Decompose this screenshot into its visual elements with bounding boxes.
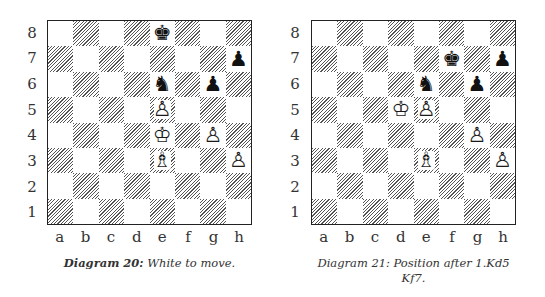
square-c2 (363, 173, 388, 198)
square-g7 (200, 46, 225, 71)
square-g5 (200, 97, 225, 122)
square-g3 (200, 148, 225, 173)
black-king-icon: ♚ (153, 23, 172, 44)
square-b6 (73, 72, 98, 97)
rank-label: 2 (22, 174, 42, 200)
square-a8 (312, 21, 337, 46)
square-f6 (175, 72, 200, 97)
piece-glyph: ♙ (468, 123, 487, 147)
square-a7 (48, 46, 73, 71)
file-label: d (124, 228, 150, 250)
square-b5 (337, 97, 362, 122)
black-knight-icon: ♞ (153, 74, 172, 95)
square-d4 (124, 123, 149, 148)
square-g6: ♟ (464, 72, 489, 97)
file-label: h (490, 228, 516, 250)
square-g6: ♟ (200, 72, 225, 97)
square-b6 (337, 72, 362, 97)
square-f5 (175, 97, 200, 122)
square-f1 (439, 199, 464, 224)
file-label: e (414, 228, 440, 250)
square-h8 (226, 21, 251, 46)
square-f7 (175, 46, 200, 71)
white-bishop-icon: ♗ (153, 150, 172, 171)
file-label: a (311, 228, 337, 250)
square-g5 (464, 97, 489, 122)
rank-label: 5 (22, 97, 42, 123)
square-f6 (439, 72, 464, 97)
square-h5 (490, 97, 515, 122)
square-e8: ♚ (150, 21, 175, 46)
square-b2 (337, 173, 362, 198)
square-h6 (490, 72, 515, 97)
square-a6 (48, 72, 73, 97)
white-pawn-icon: ♙ (468, 125, 487, 146)
square-d2 (388, 173, 413, 198)
square-g1 (200, 199, 225, 224)
square-a3 (48, 148, 73, 173)
square-e5: ♙ (150, 97, 175, 122)
square-d2 (124, 173, 149, 198)
square-b3 (337, 148, 362, 173)
square-e8 (414, 21, 439, 46)
square-a8 (48, 21, 73, 46)
square-h1 (226, 199, 251, 224)
rank-label: 1 (22, 199, 42, 225)
square-e7 (150, 46, 175, 71)
square-h8 (490, 21, 515, 46)
square-c1 (363, 199, 388, 224)
square-f2 (175, 173, 200, 198)
caption-line-1: Diagram 21: Position after 1.Kd5 (301, 256, 526, 271)
square-b3 (73, 148, 98, 173)
piece-glyph: ♚ (442, 47, 461, 71)
square-b8 (337, 21, 362, 46)
file-label: b (73, 228, 99, 250)
square-g7 (464, 46, 489, 71)
square-g3 (464, 148, 489, 173)
square-a2 (312, 173, 337, 198)
piece-glyph: ♞ (417, 72, 436, 96)
rank-label: 7 (22, 46, 42, 72)
square-e1 (414, 199, 439, 224)
black-pawn-icon: ♟ (204, 74, 223, 95)
square-e6: ♞ (150, 72, 175, 97)
diagram-caption: Diagram 21: Position after 1.Kd5 Kf7. (301, 256, 526, 286)
square-d6 (124, 72, 149, 97)
white-king-icon: ♔ (153, 125, 172, 146)
square-f8 (175, 21, 200, 46)
square-h4 (226, 123, 251, 148)
piece-glyph: ♗ (417, 148, 436, 172)
square-c6 (99, 72, 124, 97)
square-f5 (439, 97, 464, 122)
rank-label: 1 (285, 199, 305, 225)
rank-label: 7 (285, 46, 305, 72)
white-pawn-icon: ♙ (417, 99, 436, 120)
square-d7 (388, 46, 413, 71)
square-c5 (99, 97, 124, 122)
white-pawn-icon: ♙ (229, 150, 248, 171)
square-f1 (175, 199, 200, 224)
square-b1 (73, 199, 98, 224)
piece-glyph: ♙ (417, 97, 436, 121)
black-pawn-icon: ♟ (493, 49, 512, 70)
square-b8 (73, 21, 98, 46)
square-h4 (490, 123, 515, 148)
rank-label: 6 (22, 71, 42, 97)
white-pawn-icon: ♙ (204, 125, 223, 146)
square-c8 (363, 21, 388, 46)
square-c3 (363, 148, 388, 173)
chessboard: ♚♟♞♟♔♙♙♗♙ (311, 20, 516, 225)
square-a4 (312, 123, 337, 148)
square-f2 (439, 173, 464, 198)
square-f3 (439, 148, 464, 173)
square-h6 (226, 72, 251, 97)
piece-glyph: ♙ (493, 148, 512, 172)
square-e4 (414, 123, 439, 148)
square-h1 (490, 199, 515, 224)
square-a7 (312, 46, 337, 71)
piece-glyph: ♟ (468, 72, 487, 96)
rank-label: 4 (22, 123, 42, 149)
piece-glyph: ♙ (229, 148, 248, 172)
black-pawn-icon: ♟ (468, 74, 487, 95)
square-b5 (73, 97, 98, 122)
